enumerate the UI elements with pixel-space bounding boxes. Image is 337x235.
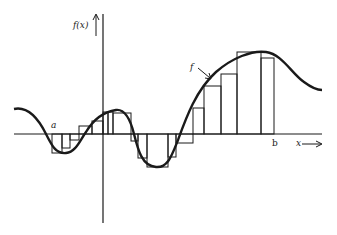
riemann-rectangle: [108, 112, 113, 134]
y-arrow-icon: [93, 14, 99, 36]
riemann-rectangle: [221, 74, 237, 134]
riemann-sum-diagram: [0, 0, 337, 235]
riemann-rectangle: [204, 86, 221, 134]
riemann-rectangle: [62, 134, 70, 148]
riemann-rectangles: [52, 52, 274, 167]
riemann-rectangle: [261, 58, 274, 134]
f-pointer-arrow-icon: [198, 68, 211, 79]
y-axis-label: f(x): [73, 21, 88, 30]
riemann-rectangle: [193, 108, 204, 134]
riemann-rectangle: [147, 134, 168, 167]
riemann-rectangle: [70, 134, 79, 140]
interval-start-label: a: [51, 121, 56, 130]
riemann-rectangle: [237, 52, 261, 134]
x-axis-label: x: [296, 139, 301, 148]
curve-label: f: [190, 63, 193, 72]
interval-end-label: b: [272, 139, 278, 148]
x-arrow-icon: [302, 141, 322, 147]
